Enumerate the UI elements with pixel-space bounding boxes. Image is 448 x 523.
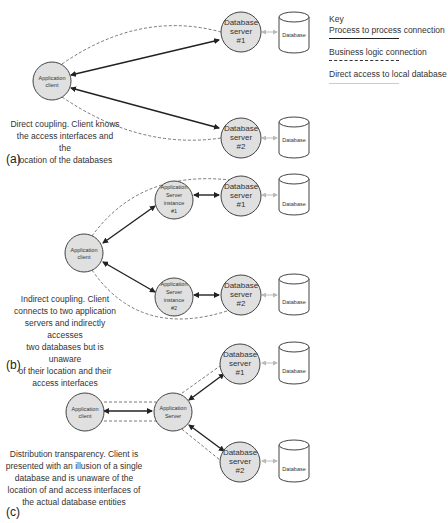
svg-text:Application: Application [72,406,99,412]
application-client-node: Application client [66,393,104,431]
svg-text:instance: instance [164,200,185,206]
process-connection [103,206,155,243]
svg-text:Database: Database [224,182,259,191]
application-server-instance-2-node: Application Server instance #2 [155,278,193,316]
svg-text:Server: Server [166,192,182,198]
process-connection [189,374,224,400]
svg-text:#2: #2 [237,299,246,308]
database-server-1-node: Database server #1 [221,12,261,52]
svg-text:Database: Database [282,299,306,305]
caption-b: Indirect coupling. Client connects to tw… [10,293,120,389]
database-server-2-node: Database server #2 [221,275,261,315]
svg-text:Database: Database [282,137,306,143]
database-cylinder-icon: Database [279,440,309,482]
svg-text:Application: Application [161,184,188,190]
application-client-node: Application client [33,62,71,100]
svg-text:#1: #1 [237,200,246,209]
legend-solid-line [329,38,399,39]
svg-text:server: server [230,133,253,142]
legend: Key Process to process connection Busine… [329,14,447,84]
svg-text:#1: #1 [237,36,246,45]
panel-letter-b: (b) [6,358,21,372]
svg-text:#2: #2 [236,466,245,475]
database-cylinder-icon: Database [279,117,309,158]
svg-text:server: server [230,290,253,299]
svg-text:Database: Database [282,201,306,207]
svg-text:#2: #2 [237,142,246,151]
database-server-1-node: Database server #1 [220,344,260,384]
svg-text:Database: Database [282,466,306,472]
database-cylinder-icon: Database [279,174,309,215]
database-server-1-node: Database server #1 [221,176,261,216]
svg-text:Database: Database [282,32,306,38]
database-cylinder-icon: Database [279,342,309,384]
database-server-2-node: Database server #2 [221,118,261,158]
svg-text:#2: #2 [171,305,177,311]
application-server-node: Application Server [154,393,192,431]
svg-text:Database: Database [224,281,259,290]
svg-text:server: server [229,457,252,466]
svg-text:#1: #1 [236,368,245,377]
panel-letter-c: (c) [6,505,20,519]
caption-c: Distribution transparency. Client is pre… [4,448,144,508]
svg-text:instance: instance [164,297,185,303]
svg-text:Server: Server [165,413,181,419]
svg-text:Application: Application [71,247,98,253]
process-connection [189,425,224,451]
svg-text:Database: Database [223,350,258,359]
svg-text:Server: Server [166,289,182,295]
application-server-instance-1-node: Application Server instance #1 [155,181,193,219]
svg-text:server: server [230,27,253,36]
svg-text:#1: #1 [171,208,177,214]
database-server-2-node: Database server #2 [220,442,260,482]
process-connection [103,262,155,292]
svg-text:Database: Database [224,124,259,133]
svg-text:Application: Application [39,75,66,81]
svg-text:client: client [79,413,92,419]
legend-item-label: Direct access to local database [329,69,447,80]
legend-dashed-line [329,60,399,61]
svg-text:client: client [46,82,59,88]
svg-text:server: server [230,191,253,200]
svg-text:client: client [78,254,91,260]
legend-light-line [329,83,399,84]
svg-text:Application: Application [161,281,188,287]
caption-a: Direct coupling. Client knows the access… [10,118,120,166]
legend-item-label: Process to process connection [329,25,447,36]
legend-item-label: Business logic connection [329,47,447,58]
application-client-node: Application client [65,234,103,272]
svg-text:Database: Database [224,18,259,27]
svg-text:Database: Database [223,448,258,457]
svg-text:Database: Database [282,368,306,374]
database-cylinder-icon: Database [279,12,309,53]
svg-text:server: server [229,359,252,368]
panel-letter-a: (a) [6,152,21,166]
database-cylinder-icon: Database [279,274,309,315]
svg-text:Application: Application [160,405,187,411]
legend-title: Key [329,14,447,25]
